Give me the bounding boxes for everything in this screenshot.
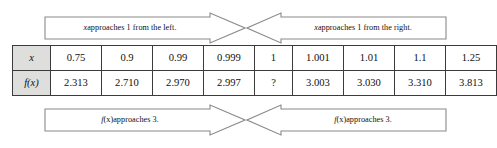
annotation-label-bottom-left: f(x) approaches 3.: [50, 104, 210, 136]
cell-x-2: 0.99: [153, 46, 204, 71]
annotation-arrow-top-right: x approaches 1 from the right.: [246, 12, 447, 44]
table-row-x: x 0.75 0.9 0.99 0.999 1 1.001 1.01 1.1 1…: [13, 46, 497, 71]
cell-fx-0: 2.313: [51, 71, 102, 96]
row-header-x: x: [13, 46, 51, 71]
cell-fx-6: 3.030: [344, 71, 395, 96]
cell-fx-8: 3.813: [446, 71, 497, 96]
annotation-arrow-top-left: x approaches 1 from the left.: [44, 12, 246, 44]
table-row-fx: f(x) 2.313 2.710 2.970 2.997 ? 3.003 3.0…: [13, 71, 497, 96]
annotation-label-bottom-right: f(x) approaches 3.: [282, 104, 444, 136]
cell-fx-7: 3.310: [395, 71, 446, 96]
cell-x-1: 0.9: [102, 46, 153, 71]
cell-x-0: 0.75: [51, 46, 102, 71]
annotation-arrow-bottom-left: f(x) approaches 3.: [44, 104, 246, 136]
cell-x-6: 1.01: [344, 46, 395, 71]
annotation-arrow-bottom-right: f(x) approaches 3.: [246, 104, 447, 136]
cell-fx-4: ?: [255, 71, 293, 96]
annotation-text: approaches 3.: [113, 116, 159, 124]
cell-fx-3: 2.997: [204, 71, 255, 96]
annotation-text: approaches 1 from the left.: [87, 24, 176, 32]
cell-fx-1: 2.710: [102, 71, 153, 96]
cell-x-5: 1.001: [293, 46, 344, 71]
cell-x-4: 1: [255, 46, 293, 71]
annotation-label-top-right: x approaches 1 from the right.: [282, 12, 444, 44]
row-header-fx: f(x): [13, 71, 51, 96]
annotation-argument: (x): [103, 116, 113, 124]
cell-fx-2: 2.970: [153, 71, 204, 96]
cell-x-8: 1.25: [446, 46, 497, 71]
cell-x-7: 1.1: [395, 46, 446, 71]
cell-x-3: 0.999: [204, 46, 255, 71]
annotation-text: approaches 3.: [346, 116, 392, 124]
annotation-argument: (x): [336, 116, 346, 124]
annotation-text: approaches 1 from the right.: [318, 24, 412, 32]
limit-data-table: x 0.75 0.9 0.99 0.999 1 1.001 1.01 1.1 1…: [12, 45, 497, 96]
cell-fx-5: 3.003: [293, 71, 344, 96]
annotation-label-top-left: x approaches 1 from the left.: [50, 12, 210, 44]
